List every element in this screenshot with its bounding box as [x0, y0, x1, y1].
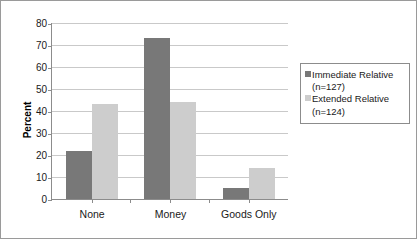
bar-groups: None Money Goods Only — [53, 23, 288, 199]
y-tick-label-70: 70 — [36, 41, 52, 51]
legend-sublabel-immediate-relative-row: (n=127) — [305, 81, 403, 92]
bar-group-goods-only: Goods Only — [210, 23, 288, 199]
y-tick-label-80: 80 — [36, 19, 52, 29]
y-tick-label-30: 30 — [36, 129, 52, 139]
bar-none-immediate-relative — [66, 151, 92, 199]
y-tick-label-20: 20 — [36, 151, 52, 161]
x-tick-mark-goods-only — [249, 199, 250, 203]
bar-chart-figure: Percent 80 70 60 50 40 30 20 — [0, 0, 417, 239]
bar-none-extended-relative — [92, 104, 118, 199]
legend-sublabel-extended-relative: (n=124) — [312, 106, 345, 117]
bar-money-extended-relative — [170, 102, 196, 199]
legend-item-extended-relative: Extended Relative — [305, 93, 403, 104]
x-tick-label-none: None — [53, 208, 131, 220]
legend-swatch-icon-extended-relative — [305, 95, 311, 101]
x-tick-mark-money — [170, 199, 171, 203]
y-tick-label-60: 60 — [36, 63, 52, 73]
bar-group-money: Money — [131, 23, 209, 199]
y-axis-title: Percent — [22, 101, 33, 138]
legend-sublabel-immediate-relative: (n=127) — [312, 81, 345, 92]
y-tick-label-50: 50 — [36, 85, 52, 95]
legend-label-immediate-relative: Immediate Relative — [312, 69, 393, 80]
legend-label-extended-relative: Extended Relative — [312, 93, 389, 104]
x-tick-label-money: Money — [131, 208, 209, 220]
x-tick-mark-none — [92, 199, 93, 203]
y-tick-label-10: 10 — [36, 173, 52, 183]
chart-legend: Immediate Relative (n=127) Extended Rela… — [300, 63, 410, 124]
y-tick-label-40: 40 — [36, 107, 52, 117]
y-tick-label-0: 0 — [41, 195, 52, 205]
x-separator-none — [130, 199, 131, 203]
plot-area: 80 70 60 50 40 30 20 10 — [51, 23, 288, 200]
bar-goods-only-immediate-relative — [223, 188, 249, 199]
legend-sublabel-extended-relative-row: (n=124) — [305, 106, 403, 117]
legend-item-immediate-relative: Immediate Relative — [305, 69, 403, 80]
bar-money-immediate-relative — [144, 38, 170, 199]
x-tick-label-goods-only: Goods Only — [210, 208, 288, 220]
bar-group-none: None — [53, 23, 131, 199]
bar-goods-only-extended-relative — [249, 168, 275, 199]
legend-swatch-icon-immediate-relative — [305, 71, 311, 77]
x-separator-money — [209, 199, 210, 203]
